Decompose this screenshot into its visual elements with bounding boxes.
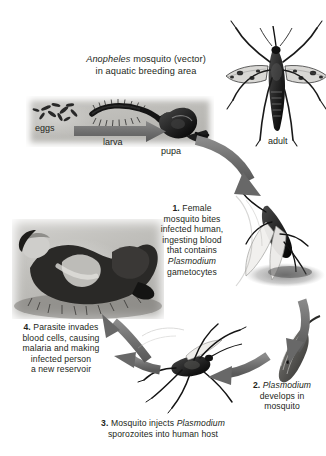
title-genus: Anopheles bbox=[86, 54, 130, 64]
step-1-line-2: mosquito bites bbox=[164, 214, 221, 224]
stage-label-eggs: eggs bbox=[35, 123, 55, 133]
step-2-caption: 2. Plasmodium develops in mosquito bbox=[238, 380, 326, 412]
injecting-mosquito-illustration bbox=[138, 324, 246, 413]
step-4-line-4: infected person bbox=[31, 354, 91, 364]
step-1-line-4: ingesting blood bbox=[162, 235, 221, 245]
step-1-line-7: gametocytes bbox=[167, 267, 217, 277]
step-3-caption: 3. Mosquito injects Plasmodium sporozoit… bbox=[44, 418, 282, 439]
step-4-line-3: malaria and making bbox=[23, 343, 100, 353]
arrow-bite-to-development bbox=[286, 300, 305, 364]
step-4-caption: 4. Parasite invades blood cells, causing… bbox=[2, 322, 120, 375]
adult-mosquito-illustration bbox=[226, 21, 326, 146]
step-3-line-2: sporozoites into human host bbox=[108, 429, 218, 439]
stage-label-adult: adult bbox=[268, 136, 288, 146]
stage-label-pupa: pupa bbox=[161, 146, 181, 156]
step-1-line-3: infected human, bbox=[161, 224, 224, 234]
human-host-outline bbox=[138, 328, 184, 348]
step-1-caption: 1. Female mosquito bites infected human,… bbox=[152, 203, 232, 277]
step-3-number: 3. bbox=[101, 418, 108, 428]
stage-label-larva: larva bbox=[103, 137, 123, 147]
figure-title: Anopheles mosquito (vector) in aquatic b… bbox=[56, 54, 236, 77]
step-4-line-1: Parasite invades bbox=[33, 322, 98, 332]
step-3-line-1a: Mosquito injects bbox=[111, 418, 174, 428]
title-line2: in aquatic breeding area bbox=[96, 66, 197, 76]
mosquito-gut-illustration bbox=[279, 316, 320, 382]
arrow-pupa-to-adult-bite bbox=[196, 140, 261, 196]
step-4-line-5: a new reservoir bbox=[31, 364, 91, 374]
step-1-line-1: Female bbox=[182, 203, 211, 213]
step-4-line-2: blood cells, causing bbox=[22, 333, 99, 343]
arrow-injection-to-human bbox=[114, 352, 160, 370]
step-4-number: 4. bbox=[23, 322, 30, 332]
step-2-line-2: develops in bbox=[260, 391, 305, 401]
step-1-line-5: that contains bbox=[167, 245, 217, 255]
step-2-line-3: mosquito bbox=[264, 401, 300, 411]
malaria-cycle-figure: Anopheles mosquito (vector) in aquatic b… bbox=[0, 0, 326, 456]
step-2-number: 2. bbox=[253, 380, 260, 390]
step-1-number: 1. bbox=[172, 203, 179, 213]
human-skin-outline bbox=[236, 196, 262, 286]
biting-mosquito-illustration bbox=[242, 192, 325, 287]
sleeping-human-photo bbox=[12, 219, 164, 319]
step-2-parasite-name: Plasmodium bbox=[263, 380, 311, 390]
step-3-parasite-name: Plasmodium bbox=[177, 418, 225, 428]
title-line1-rest: mosquito (vector) bbox=[131, 54, 206, 64]
step-1-parasite-name: Plasmodium bbox=[168, 256, 216, 266]
